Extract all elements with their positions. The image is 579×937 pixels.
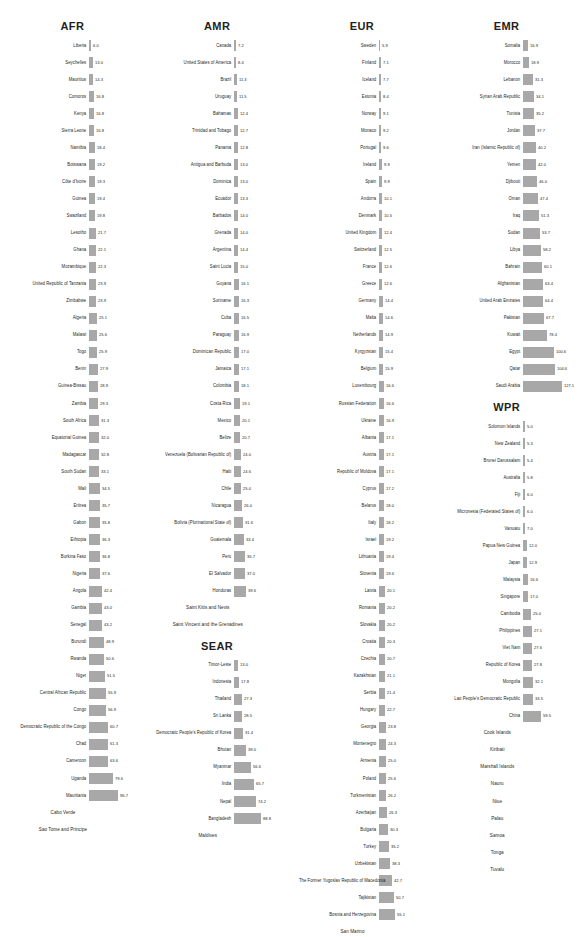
bar-row: Djibouti46.0 [436, 173, 577, 190]
bar-label: India [154, 781, 234, 787]
bar [89, 142, 95, 153]
bar [523, 228, 539, 239]
bar-track: 5.4 [523, 452, 577, 469]
bar-label: Marshall Islands [436, 764, 558, 770]
bar-row: Democratic People's Republic of Korea31.… [147, 725, 288, 742]
bar-label: Somalia [443, 43, 523, 49]
bar-value: 7.2 [236, 43, 244, 49]
bar-label: Luxembourg [298, 383, 378, 389]
bar-track: 65.7 [234, 776, 288, 793]
bar-row: Dominican Republic17.0 [147, 344, 288, 361]
bar-label: Bulgaria [298, 827, 378, 833]
bar-row: Serbia21.4 [292, 685, 433, 702]
column-1: AFR Liberia6.0Seychelles13.0Mauritius14.… [0, 10, 145, 838]
bar-value: 12.8 [238, 145, 248, 151]
bar-label: Tunisia [443, 111, 523, 117]
bar-label: Austria [298, 452, 378, 458]
bar [89, 381, 98, 392]
bar [523, 694, 533, 705]
bar-value: 21.7 [96, 230, 106, 236]
bar-track: 43.2 [89, 617, 143, 634]
bar-track: 9.6 [379, 139, 433, 156]
bar-track: 78.4 [523, 327, 577, 344]
bar-value: 25.9 [97, 349, 107, 355]
bar-value: 12.0 [527, 543, 537, 549]
bar-label: Mauritius [9, 77, 89, 83]
bar-value: 21.4 [385, 690, 395, 696]
bar-label: Eritrea [9, 503, 89, 509]
bar [89, 432, 99, 443]
bar-row: Côte d'Ivoire19.3 [2, 173, 143, 190]
bar-label: Turkey [298, 844, 378, 850]
bar-row: Singapore17.0 [436, 588, 577, 605]
bar-row: Libya58.2 [436, 242, 577, 259]
bar-row: Zimbabwe23.9 [2, 293, 143, 310]
bar [89, 586, 102, 597]
bar-label: Nepal [154, 799, 234, 805]
bar-row: Gabon35.8 [2, 514, 143, 531]
bar [89, 722, 108, 733]
bar [89, 159, 95, 170]
bar-label: Nicaragua [154, 503, 234, 509]
bar [89, 739, 108, 750]
bar-label: Poland [298, 776, 378, 782]
bar-label: Cabo Verde [2, 810, 124, 816]
bar-track: 17.1 [379, 463, 433, 480]
bar-value: 88.8 [261, 816, 271, 822]
bar-row: Peru35.7 [147, 548, 288, 565]
bar-row: Iceland7.7 [292, 71, 433, 88]
bar-label: Grenada [154, 230, 234, 236]
bar [234, 779, 254, 790]
bar-row: United Republic of Tanzania23.9 [2, 276, 143, 293]
bar-track: 25.0 [379, 753, 433, 770]
bar-row: Guinea-Bissau28.9 [2, 378, 143, 395]
bar-track: 12.7 [234, 122, 288, 139]
bar-track: 33.4 [234, 531, 288, 548]
bar-row: Italy18.2 [292, 514, 433, 531]
bar-row: Kenya16.8 [2, 105, 143, 122]
bar-row: Saint Kitts and Nevis [147, 600, 288, 617]
bar-value: 7.0 [525, 526, 533, 532]
bar-value: 43.2 [102, 622, 112, 628]
bar-value: 16.8 [94, 111, 104, 117]
bar [379, 381, 384, 392]
bar-label: Croatia [298, 639, 378, 645]
bar-track: 6.0 [89, 37, 143, 54]
bar [89, 313, 97, 324]
bar [89, 449, 99, 460]
bar-value: 28.9 [98, 383, 108, 389]
bar-value: 17.1 [384, 452, 394, 458]
bar-label: Indonesia [154, 679, 234, 685]
bar-track: 34.5 [89, 480, 143, 497]
bar [379, 909, 396, 920]
bar-track: 20.1 [234, 412, 288, 429]
bar-track: 5.0 [523, 418, 577, 435]
bar [89, 228, 96, 239]
bar-row: Bosnia and Herzegovina55.1 [292, 906, 433, 923]
bar-row: Tajikistan50.7 [292, 889, 433, 906]
bar-value: 23.9 [96, 281, 106, 287]
bar-label: Cook Islands [436, 730, 558, 736]
bar-track: 35.8 [89, 514, 143, 531]
bar-value: 9.1 [381, 111, 389, 117]
bar-label: Lithuania [298, 554, 378, 560]
bar-value: 16.9 [528, 43, 538, 49]
bar-track: 19.3 [89, 173, 143, 190]
bar-row: Swaziland19.8 [2, 207, 143, 224]
bar-value: 37.6 [100, 571, 110, 577]
bar-row: Armenia25.0 [292, 753, 433, 770]
bar-row: Tonga [436, 844, 577, 861]
bar-row: Lesotho21.7 [2, 225, 143, 242]
bar-label: Paraguay [154, 332, 234, 338]
bar-value: 51.3 [539, 213, 549, 219]
bar-row: Afghanistan63.4 [436, 276, 577, 293]
column-3: EUR Sweden5.9Finland7.1Iceland7.7Estonia… [290, 10, 435, 937]
bar-track: 29.3 [89, 395, 143, 412]
bar-track: 46.0 [523, 173, 577, 190]
bar-track: 17.1 [234, 361, 288, 378]
bar-value: 9.9 [382, 162, 390, 168]
bar-row: Vanuatu7.0 [436, 520, 577, 537]
bar-row: Mali34.5 [2, 480, 143, 497]
bar-label: Slovenia [298, 571, 378, 577]
bar-track: 9.1 [379, 105, 433, 122]
